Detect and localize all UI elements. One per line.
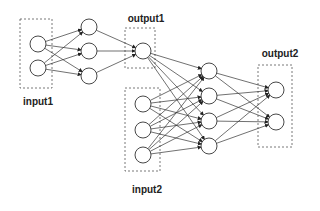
connection (151, 147, 201, 154)
hidden1-node (81, 68, 97, 84)
connection (217, 73, 269, 88)
hidden2-node (201, 63, 217, 79)
hidden1-node (81, 43, 97, 59)
input2-node (135, 122, 151, 138)
connection (217, 91, 268, 96)
connection (151, 97, 201, 103)
connection (96, 30, 135, 48)
output2-node (268, 82, 284, 98)
hidden2-node (201, 138, 217, 154)
output1-node (135, 43, 151, 59)
neurons (30, 19, 284, 163)
output2-label: output2 (262, 48, 299, 59)
connection (96, 54, 135, 72)
hidden1-node (81, 19, 97, 35)
input1-node (30, 60, 46, 76)
input2-node (135, 147, 151, 163)
connection (44, 32, 83, 63)
connection (45, 48, 82, 71)
input2-label: input2 (132, 184, 162, 195)
connection (150, 125, 202, 152)
input1-node (30, 36, 46, 52)
connections (44, 30, 270, 154)
connection (46, 30, 82, 42)
connection (217, 121, 268, 122)
input1-box (20, 19, 52, 88)
connection (217, 125, 269, 144)
output1-label: output1 (128, 13, 165, 24)
input1-label: input1 (23, 96, 53, 107)
input2-node (135, 96, 151, 112)
output2-box (258, 65, 292, 147)
hidden2-node (201, 88, 217, 104)
connection (216, 99, 268, 119)
hidden2-node (201, 113, 217, 129)
connection (148, 57, 203, 115)
connection (148, 58, 205, 140)
connection (46, 54, 82, 66)
connection (216, 93, 268, 117)
connection (150, 75, 202, 101)
output2-node (268, 114, 284, 130)
connection (46, 69, 81, 75)
